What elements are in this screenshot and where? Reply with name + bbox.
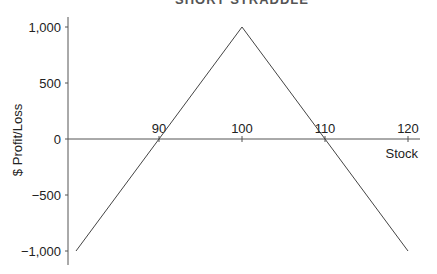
x-tick-label: 90 (152, 121, 166, 136)
y-tick-label: 0 (54, 132, 61, 147)
y-tick-label: −500 (32, 188, 61, 203)
x-tick-label: 100 (231, 121, 253, 136)
y-tick-label: −1,000 (21, 244, 61, 259)
y-axis-label: $ Profit/Loss (10, 103, 25, 176)
x-tick-label: 120 (397, 121, 419, 136)
chart-title: SHORT STRADDLE (175, 0, 309, 7)
y-tick-label: 1,000 (28, 20, 61, 35)
y-tick-label: 500 (39, 76, 61, 91)
payoff-chart: SHORT STRADDLE 1,0005000−500−1,000 90100… (0, 0, 437, 274)
x-axis-label: Stock (385, 146, 418, 161)
y-ticks: 1,0005000−500−1,000 (21, 20, 68, 259)
